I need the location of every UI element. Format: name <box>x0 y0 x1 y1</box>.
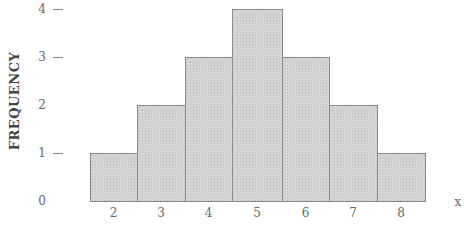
x-tick-label: 3 <box>157 206 165 220</box>
x-tick-label: 8 <box>397 206 405 220</box>
x-tick-label: 5 <box>253 206 261 220</box>
x-tick-label: 6 <box>302 206 310 220</box>
y-tick-label: 4 <box>38 2 46 16</box>
x-axis-label: x <box>455 195 462 209</box>
bar-6 <box>282 57 330 202</box>
y-axis-label: FREQUENCY <box>7 52 22 151</box>
x-tick-label: 4 <box>205 206 213 220</box>
y-tick-label: 1 <box>38 146 46 160</box>
bar-2 <box>90 153 138 202</box>
x-tick-label: 2 <box>110 206 118 220</box>
y-tick-mark <box>53 153 63 154</box>
y-tick-label: 0 <box>38 194 46 208</box>
y-tick-label: 3 <box>38 50 46 64</box>
y-tick-mark <box>53 57 63 58</box>
bar-7 <box>329 105 378 202</box>
y-tick-label: 2 <box>38 98 46 112</box>
x-tick-label: 7 <box>349 206 357 220</box>
bar-5 <box>232 9 283 202</box>
bar-8 <box>377 153 426 202</box>
y-tick-mark <box>53 9 63 10</box>
bar-3 <box>137 105 186 202</box>
bar-4 <box>185 57 233 202</box>
